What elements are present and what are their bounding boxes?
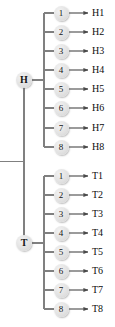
tree-node-h-7: 7 bbox=[54, 121, 69, 136]
leaf-label-h8: H8 bbox=[92, 142, 104, 152]
leaf-label-h2: H2 bbox=[92, 27, 104, 37]
leaf-label-t3: T3 bbox=[92, 209, 103, 219]
leaf-label-t7: T7 bbox=[92, 285, 103, 295]
tree-node-t-8: 8 bbox=[54, 302, 69, 317]
tree-diagram: 12345678H12345678T H1H2H3H4H5H6H7H8T1T2T… bbox=[0, 0, 115, 327]
leaf-label-t6: T6 bbox=[92, 266, 103, 276]
tree-node-h-5: 5 bbox=[54, 82, 69, 97]
leaf-label-t1: T1 bbox=[92, 171, 103, 181]
leaf-label-h6: H6 bbox=[92, 103, 104, 113]
leaf-label-h5: H5 bbox=[92, 84, 104, 94]
tree-node-h-4: 4 bbox=[54, 63, 69, 78]
tree-node-h-1: 1 bbox=[54, 6, 69, 21]
tree-root-node-t: T bbox=[16, 235, 32, 251]
tree-node-h-6: 6 bbox=[54, 101, 69, 116]
leaf-label-h7: H7 bbox=[92, 123, 104, 133]
tree-node-t-2: 2 bbox=[54, 188, 69, 203]
leaf-label-h3: H3 bbox=[92, 46, 104, 56]
tree-node-h-2: 2 bbox=[54, 25, 69, 40]
tree-node-h-8: 8 bbox=[54, 140, 69, 155]
tree-root-node-h: H bbox=[16, 72, 32, 88]
leaf-label-t5: T5 bbox=[92, 247, 103, 257]
tree-node-t-4: 4 bbox=[54, 226, 69, 241]
tree-node-t-5: 5 bbox=[54, 245, 69, 260]
leaf-label-t8: T8 bbox=[92, 304, 103, 314]
tree-node-t-6: 6 bbox=[54, 264, 69, 279]
leaf-label-t4: T4 bbox=[92, 228, 103, 238]
tree-node-t-1: 1 bbox=[54, 169, 69, 184]
leaf-label-t2: T2 bbox=[92, 190, 103, 200]
leaf-label-h4: H4 bbox=[92, 65, 104, 75]
tree-node-h-3: 3 bbox=[54, 44, 69, 59]
leaf-label-h1: H1 bbox=[92, 8, 104, 18]
tree-node-t-3: 3 bbox=[54, 207, 69, 222]
tree-node-t-7: 7 bbox=[54, 283, 69, 298]
